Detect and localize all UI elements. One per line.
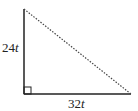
triangle-graphic bbox=[0, 0, 138, 111]
horizontal-leg-label: 32t bbox=[68, 97, 85, 110]
vertical-leg-variable: t bbox=[15, 40, 19, 55]
horizontal-leg-variable: t bbox=[81, 96, 85, 111]
horizontal-leg-coefficient: 32 bbox=[68, 96, 81, 111]
right-triangle-diagram: 24t 32t bbox=[0, 0, 138, 111]
vertical-leg-label: 24t bbox=[2, 41, 19, 54]
vertical-leg-coefficient: 24 bbox=[2, 40, 15, 55]
hypotenuse bbox=[24, 9, 131, 94]
right-angle-marker bbox=[24, 87, 31, 94]
